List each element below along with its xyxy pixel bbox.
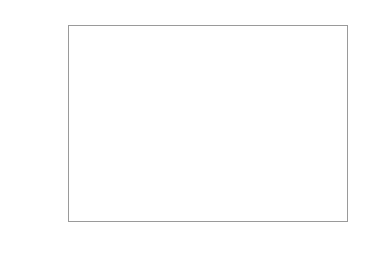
y-axis-tick-marks xyxy=(0,25,72,222)
plot-area xyxy=(68,25,348,222)
x-axis-tick-labels xyxy=(0,224,377,240)
normal-probability-plot xyxy=(0,0,377,266)
fit-line xyxy=(69,26,347,221)
